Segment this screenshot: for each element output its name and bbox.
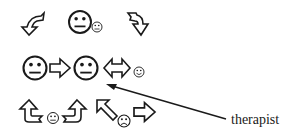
curly-arrow-up-left-icon bbox=[20, 100, 42, 122]
neutral-face-icon bbox=[75, 57, 98, 80]
frowning-face-icon bbox=[118, 115, 130, 127]
neutral-face-icon bbox=[24, 57, 47, 80]
neutral-face-icon bbox=[69, 11, 91, 33]
curved-arrow-down-left-icon bbox=[22, 13, 44, 35]
left-right-arrow-icon bbox=[104, 59, 130, 77]
neutral-face-icon-small bbox=[92, 22, 102, 32]
annotation-pointer-arrow bbox=[106, 84, 226, 119]
smiling-face-icon bbox=[134, 67, 144, 77]
curved-arrow-down-right-icon bbox=[128, 13, 148, 35]
right-arrow-icon bbox=[50, 59, 70, 77]
curly-arrow-up-right-icon bbox=[63, 100, 86, 122]
diagonal-arrow-up-left-icon bbox=[97, 100, 117, 120]
neutral-face-icon-small bbox=[48, 113, 59, 124]
therapist-label: therapist bbox=[231, 112, 279, 128]
right-arrow-icon bbox=[134, 103, 155, 122]
